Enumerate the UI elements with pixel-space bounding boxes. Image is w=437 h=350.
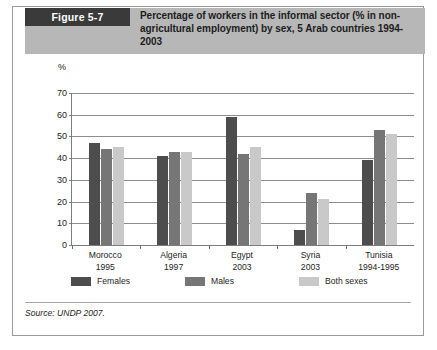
legend-swatch — [299, 277, 319, 286]
y-axis-tick-label: 20 — [57, 197, 67, 207]
bar — [386, 134, 397, 245]
x-axis-tick-mark — [72, 245, 73, 249]
x-axis-country-name: Egypt — [208, 250, 276, 262]
bar-group — [346, 93, 414, 245]
legend-label: Males — [211, 276, 234, 286]
x-axis-country-name: Tunisia — [345, 250, 413, 262]
bar — [101, 149, 112, 245]
bar — [238, 154, 249, 245]
bar — [157, 156, 168, 245]
y-axis-tick-label: 60 — [57, 110, 67, 120]
x-axis-label: Tunisia1994-1995 — [345, 250, 413, 273]
figure-container: Figure 5-7 Percentage of workers in the … — [0, 0, 437, 350]
bar-group — [209, 93, 277, 245]
x-axis-year: 2003 — [208, 262, 276, 274]
x-axis-label: Morocco1995 — [71, 250, 139, 273]
x-axis-year: 1994-1995 — [345, 262, 413, 274]
x-axis-labels: Morocco1995Algeria1997Egypt2003Syria2003… — [71, 250, 413, 273]
bar — [318, 199, 329, 245]
legend-label: Females — [97, 276, 130, 286]
y-axis-tick-label: 0 — [62, 240, 67, 250]
x-axis-tick-mark — [140, 245, 141, 249]
bar — [89, 143, 100, 245]
x-axis-label: Egypt2003 — [208, 250, 276, 273]
source-note: Source: UNDP 2007. — [25, 308, 105, 318]
x-axis-tick-mark — [277, 245, 278, 249]
legend-item: Males — [185, 276, 299, 286]
y-axis-tick-label: 50 — [57, 131, 67, 141]
x-axis-year: 1995 — [71, 262, 139, 274]
bar — [226, 117, 237, 245]
bar — [250, 147, 261, 245]
bar — [374, 130, 385, 245]
bar — [362, 160, 373, 245]
chart-legend: FemalesMalesBoth sexes — [71, 276, 413, 286]
bar-group — [277, 93, 345, 245]
bar — [294, 230, 305, 245]
y-axis-tick-label: 30 — [57, 175, 67, 185]
y-axis-tick-label: 40 — [57, 153, 67, 163]
bar — [113, 147, 124, 245]
y-axis-tick-label: 10 — [57, 218, 67, 228]
chart-area: % 010203040506070 Morocco1995Algeria1997… — [12, 60, 424, 295]
legend-label: Both sexes — [325, 276, 368, 286]
x-axis-year: 2003 — [276, 262, 344, 274]
x-axis-label: Algeria1997 — [139, 250, 207, 273]
y-axis-unit-label: % — [58, 62, 66, 72]
legend-swatch — [71, 277, 91, 286]
figure-number-badge: Figure 5-7 — [25, 8, 130, 26]
plot-region: 010203040506070 — [71, 93, 414, 246]
bar — [181, 152, 192, 245]
x-axis-country-name: Morocco — [71, 250, 139, 262]
bar-groups-layer — [72, 93, 414, 245]
figure-title: Percentage of workers in the informal se… — [140, 9, 418, 49]
x-axis-tick-mark — [346, 245, 347, 249]
x-axis-tick-mark — [209, 245, 210, 249]
legend-item: Females — [71, 276, 185, 286]
source-divider — [25, 302, 411, 303]
legend-swatch — [185, 277, 205, 286]
x-axis-country-name: Syria — [276, 250, 344, 262]
y-axis-tick-label: 70 — [57, 88, 67, 98]
legend-item: Both sexes — [299, 276, 413, 286]
bar — [169, 152, 180, 245]
x-axis-country-name: Algeria — [139, 250, 207, 262]
x-axis-year: 1997 — [139, 262, 207, 274]
x-axis-label: Syria2003 — [276, 250, 344, 273]
bar-group — [140, 93, 208, 245]
bar — [306, 193, 317, 245]
bar-group — [72, 93, 140, 245]
